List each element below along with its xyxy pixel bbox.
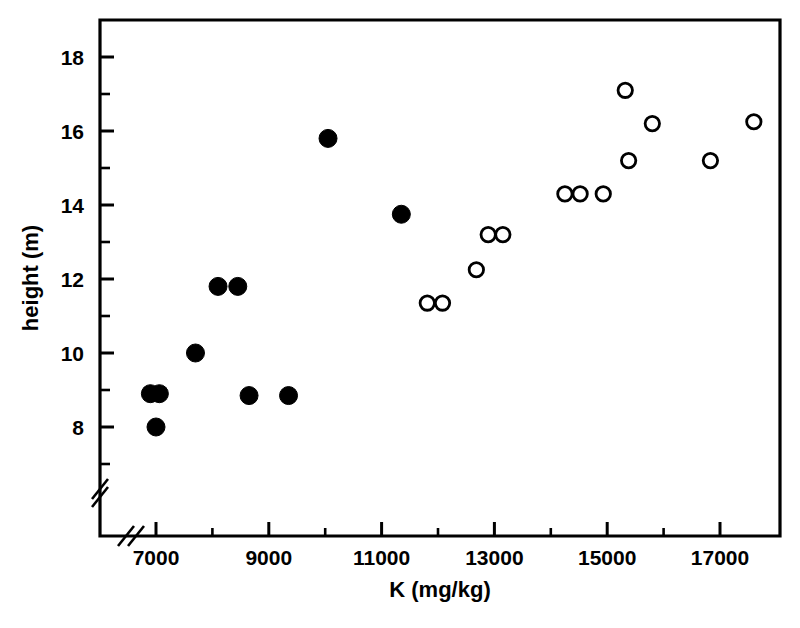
data-point-open (645, 116, 659, 130)
data-point-layer (141, 83, 761, 436)
axis-frame (100, 20, 780, 536)
data-point-filled (186, 344, 204, 362)
data-point-filled (319, 129, 337, 147)
x-tick-label: 13000 (465, 546, 523, 569)
y-axis-title: height (m) (18, 225, 43, 331)
x-axis-tick-labels: 7000900011000130001500017000 (133, 546, 750, 569)
y-tick-label: 14 (61, 194, 85, 217)
data-point-filled (280, 387, 298, 405)
y-tick-label: 18 (61, 46, 85, 69)
x-tick-label: 9000 (245, 546, 292, 569)
data-point-filled (392, 205, 410, 223)
data-point-open (496, 227, 510, 241)
data-point-filled (229, 277, 247, 295)
data-point-open (703, 153, 717, 167)
y-axis-tick-labels: 81012141618 (61, 46, 85, 439)
data-point-open (621, 153, 635, 167)
data-point-open (420, 296, 434, 310)
data-point-open (618, 83, 632, 97)
data-point-filled (209, 277, 227, 295)
x-tick-label: 15000 (578, 546, 636, 569)
data-point-open (469, 263, 483, 277)
x-tick-label: 7000 (133, 546, 180, 569)
x-axis-title: K (mg/kg) (389, 577, 490, 602)
x-tick-label: 11000 (353, 546, 410, 569)
y-tick-label: 10 (61, 342, 84, 365)
data-point-open (481, 227, 495, 241)
data-point-open (558, 187, 572, 201)
data-point-filled (147, 418, 165, 436)
data-point-filled (150, 385, 168, 403)
x-tick-label: 17000 (691, 546, 749, 569)
data-point-open (573, 187, 587, 201)
y-tick-label: 12 (61, 268, 84, 291)
data-point-open (435, 296, 449, 310)
data-point-open (747, 115, 761, 129)
scatter-plot-figure: 81012141618 7000900011000130001500017000… (0, 0, 800, 628)
plot-border (100, 20, 780, 536)
chart-canvas: 81012141618 7000900011000130001500017000… (0, 0, 800, 628)
data-point-filled (240, 387, 258, 405)
y-tick-label: 8 (72, 416, 84, 439)
data-point-open (596, 187, 610, 201)
y-tick-label: 16 (61, 120, 84, 143)
